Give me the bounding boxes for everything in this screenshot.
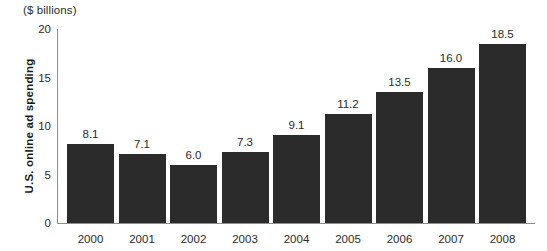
bar-series: 8.120007.120016.020027.320039.1200411.22…: [67, 29, 535, 223]
x-axis-line: [57, 223, 535, 224]
bar-group: 8.12000: [67, 29, 114, 223]
x-tick-label: 2002: [170, 233, 217, 245]
x-tick-label: 2008: [479, 233, 526, 245]
y-tick-label: 15: [38, 72, 51, 84]
bar-value-label: 11.2: [325, 98, 372, 110]
x-tick-label: 2005: [325, 233, 372, 245]
plot-area: 05101520 8.120007.120016.020027.320039.1…: [57, 29, 535, 223]
bar-value-label: 9.1: [273, 119, 320, 131]
bar-group: 7.32003: [222, 29, 269, 223]
bar: [376, 92, 423, 223]
bar-group: 7.12001: [119, 29, 166, 223]
bar-value-label: 18.5: [479, 28, 526, 40]
bar-group: 16.02007: [428, 29, 475, 223]
bar: [222, 152, 269, 223]
bar-chart: ($ billions) U.S. online ad spending 051…: [0, 0, 547, 251]
bar: [273, 135, 320, 223]
bar-group: 18.52008: [479, 29, 526, 223]
bar-group: 6.02002: [170, 29, 217, 223]
bar-value-label: 13.5: [376, 76, 423, 88]
bar-value-label: 8.1: [67, 128, 114, 140]
y-tick-label: 20: [38, 23, 51, 35]
x-tick-label: 2006: [376, 233, 423, 245]
bar: [170, 165, 217, 223]
bar: [325, 114, 372, 223]
bar-value-label: 16.0: [428, 52, 475, 64]
x-tick-label: 2000: [67, 233, 114, 245]
y-tick-label: 0: [45, 217, 51, 229]
bar: [67, 144, 114, 223]
x-tick-label: 2001: [119, 233, 166, 245]
bar-group: 11.22005: [325, 29, 372, 223]
bar: [479, 44, 526, 223]
bar-group: 13.52006: [376, 29, 423, 223]
x-tick-label: 2003: [222, 233, 269, 245]
y-tick-label: 10: [38, 120, 51, 132]
x-tick-label: 2004: [273, 233, 320, 245]
bar-value-label: 6.0: [170, 149, 217, 161]
y-tick-label: 5: [45, 169, 51, 181]
bar: [119, 154, 166, 223]
y-axis-title: U.S. online ad spending: [23, 41, 35, 211]
y-axis-line: [57, 29, 58, 223]
unit-caption: ($ billions): [23, 4, 77, 16]
bar-value-label: 7.1: [119, 138, 166, 150]
bar-value-label: 7.3: [222, 136, 269, 148]
bar: [428, 68, 475, 223]
bar-group: 9.12004: [273, 29, 320, 223]
x-tick-label: 2007: [428, 233, 475, 245]
